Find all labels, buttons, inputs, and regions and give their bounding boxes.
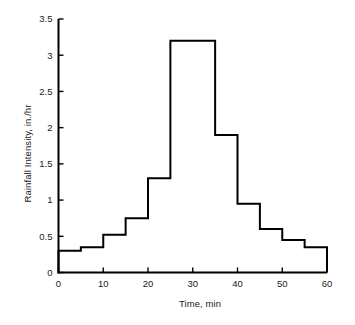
x-tick-label: 50 bbox=[277, 278, 288, 289]
y-tick-label: 0.5 bbox=[39, 231, 52, 242]
y-tick-label: 0 bbox=[47, 267, 52, 278]
y-axis-ticks: 00.511.522.533.5 bbox=[39, 13, 63, 278]
x-tick-label: 10 bbox=[98, 278, 109, 289]
axis-spines bbox=[58, 19, 328, 274]
y-tick-label: 1.5 bbox=[39, 158, 52, 169]
x-axis-ticks: 0102030405060 bbox=[56, 268, 332, 289]
x-tick-label: 30 bbox=[187, 278, 198, 289]
chart-plot-area: 00.511.522.533.5 0102030405060 bbox=[0, 0, 355, 325]
x-tick-label: 40 bbox=[232, 278, 243, 289]
rainfall-step-series bbox=[59, 41, 328, 273]
y-tick-label: 1 bbox=[47, 194, 52, 205]
x-tick-label: 20 bbox=[143, 278, 154, 289]
x-tick-label: 0 bbox=[56, 278, 61, 289]
y-tick-label: 2 bbox=[47, 122, 52, 133]
y-tick-label: 3 bbox=[47, 50, 52, 61]
y-tick-label: 2.5 bbox=[39, 86, 52, 97]
y-tick-label: 3.5 bbox=[39, 13, 52, 24]
hyetograph-chart: 00.511.522.533.5 0102030405060 Rainfall … bbox=[0, 0, 355, 325]
x-axis-label: Time, min bbox=[50, 298, 350, 309]
y-axis-label: Rainfall Intensity, in./hr bbox=[22, 64, 33, 244]
x-tick-label: 60 bbox=[322, 278, 333, 289]
